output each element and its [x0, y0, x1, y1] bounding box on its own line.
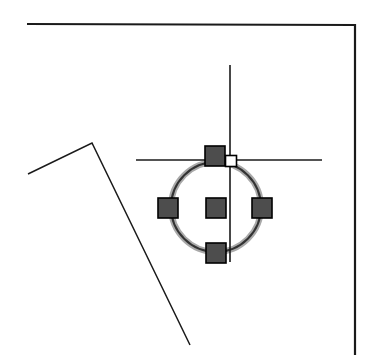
grip-quadrant-top[interactable] — [205, 146, 225, 166]
cad-drawing-canvas[interactable] — [0, 0, 375, 362]
canvas-background — [0, 0, 375, 362]
grip-center[interactable] — [206, 198, 226, 218]
cad-vector-surface[interactable] — [0, 0, 375, 362]
grip-quadrant-left[interactable] — [158, 198, 178, 218]
grip-quadrant-right[interactable] — [252, 198, 272, 218]
grip-hot-snap-marker[interactable] — [226, 156, 237, 167]
grip-quadrant-bottom[interactable] — [206, 243, 226, 263]
